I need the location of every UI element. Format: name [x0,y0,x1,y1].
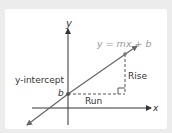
rise-label: Rise [128,71,147,81]
run-label: Run [85,96,102,106]
y-intercept-label: y-intercept [15,75,64,85]
right-angle-marker [118,88,125,94]
rise-point [123,52,127,56]
x-axis-label: x [152,103,159,113]
graph-line-upper [68,46,137,94]
y-axis-label: y [65,18,73,29]
b-label: b [58,88,64,98]
equation-label: y = mx + b [96,38,152,49]
intercept-point [66,92,70,96]
slope-intercept-diagram: y x y = mx + b Rise Run y-intercept b [0,0,172,133]
graph-line-lower [27,94,68,125]
